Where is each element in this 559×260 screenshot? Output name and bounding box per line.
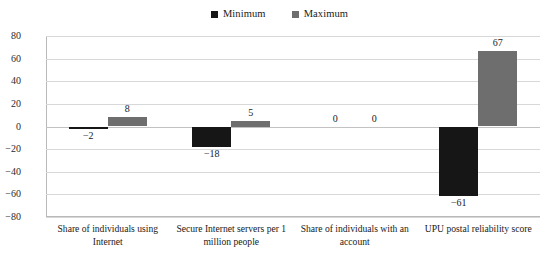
value-label: 0: [333, 114, 338, 124]
bar-maximum: [478, 51, 517, 127]
gridline: [46, 217, 540, 218]
y-tick-label: 0: [0, 122, 21, 132]
bar-maximum: [231, 121, 270, 127]
chart-legend: Minimum Maximum: [0, 9, 559, 20]
y-tick-label: −20: [0, 144, 21, 154]
y-tick-label: 20: [0, 99, 21, 109]
value-label: −2: [83, 131, 94, 141]
category-label-2: Secure Internet servers per 1 million pe…: [170, 222, 294, 260]
bar-minimum: [192, 127, 231, 147]
gridline: [46, 59, 540, 60]
y-tick-label: −60: [0, 189, 21, 199]
value-label: −61: [451, 198, 467, 208]
value-label: −18: [204, 149, 220, 159]
legend-item-minimum: Minimum: [211, 9, 266, 20]
bar-minimum: [439, 127, 478, 196]
category-label-4: UPU postal reliability score: [417, 222, 541, 260]
value-label: 5: [248, 108, 253, 118]
x-axis-category-labels: Share of individuals using InternetSecur…: [46, 222, 540, 260]
y-tick-label: −40: [0, 167, 21, 177]
y-tick-label: 60: [0, 54, 21, 64]
value-label: 67: [493, 38, 503, 48]
category-label-1: Share of individuals using Internet: [46, 222, 170, 260]
legend-label-minimum: Minimum: [223, 9, 266, 20]
legend-label-maximum: Maximum: [304, 9, 348, 20]
bar-minimum: [69, 127, 108, 129]
legend-swatch-maximum: [292, 11, 299, 18]
chart-plot-area: 806040200−20−40−60−80 −28−18500−6167: [46, 36, 540, 217]
y-tick-label: 40: [0, 76, 21, 86]
value-label: 0: [372, 114, 377, 124]
gridline: [46, 36, 540, 37]
y-tick-label: 80: [0, 31, 21, 41]
y-tick-label: −80: [0, 212, 21, 222]
gridline: [46, 104, 540, 105]
bar-maximum: [108, 117, 147, 126]
gridline: [46, 81, 540, 82]
legend-swatch-minimum: [211, 11, 218, 18]
category-label-3: Share of individuals with an account: [293, 222, 417, 260]
legend-item-maximum: Maximum: [292, 9, 348, 20]
value-label: 8: [125, 104, 130, 114]
